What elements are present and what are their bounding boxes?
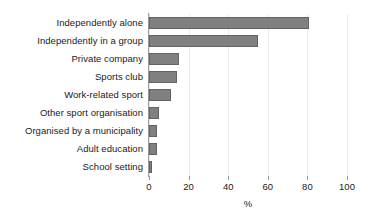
plot-area xyxy=(149,14,347,176)
category-label: Private company xyxy=(0,50,143,68)
x-tick-label: 0 xyxy=(129,181,169,192)
x-axis-label: % xyxy=(149,198,347,209)
bar xyxy=(149,125,157,137)
x-tick-label: 40 xyxy=(208,181,248,192)
bar xyxy=(149,107,159,119)
tick-mark xyxy=(307,176,308,180)
category-label: Work-related sport xyxy=(0,86,143,104)
tick-mark xyxy=(189,176,190,180)
category-axis-labels: Independently alone Independently in a g… xyxy=(0,14,143,176)
y-axis-line xyxy=(148,13,149,177)
category-label: School setting xyxy=(0,158,143,176)
category-label: Adult education xyxy=(0,140,143,158)
bar xyxy=(149,89,171,101)
tick-mark xyxy=(268,176,269,180)
x-tick-label: 100 xyxy=(327,181,367,192)
x-tick-label: 80 xyxy=(287,181,327,192)
bar xyxy=(149,53,179,65)
tick-mark xyxy=(228,176,229,180)
category-label: Organised by a municipality xyxy=(0,122,143,140)
bar xyxy=(149,143,157,155)
tick-mark xyxy=(347,176,348,180)
category-label: Independently alone xyxy=(0,14,143,32)
x-tick-label: 60 xyxy=(248,181,288,192)
bar xyxy=(149,71,177,83)
x-axis-ticks: 0 20 40 60 80 100 xyxy=(149,176,347,181)
gridline xyxy=(307,14,308,176)
bar xyxy=(149,17,309,29)
bar xyxy=(149,161,152,173)
category-label: Other sport organisation xyxy=(0,104,143,122)
category-label: Sports club xyxy=(0,68,143,86)
tick-mark xyxy=(149,176,150,180)
category-label: Independently in a group xyxy=(0,32,143,50)
bar xyxy=(149,35,258,47)
bar-chart: Independently alone Independently in a g… xyxy=(0,0,376,222)
gridline xyxy=(347,14,348,176)
gridline xyxy=(268,14,269,176)
x-tick-label: 20 xyxy=(169,181,209,192)
